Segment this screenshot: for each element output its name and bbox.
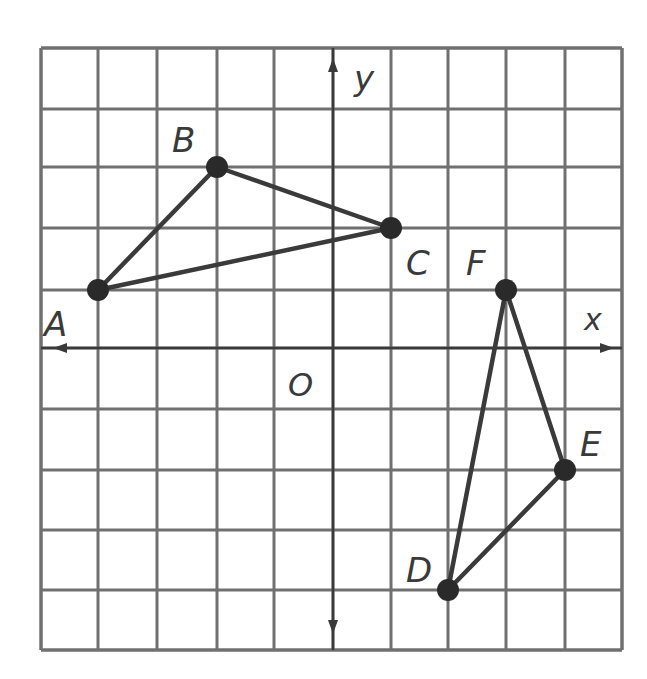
x-axis-arrow-right-icon: [600, 343, 614, 353]
y-axis-arrow-down-icon: [328, 620, 338, 634]
coordinate-plane-diagram: x y O A B C D E F: [0, 0, 647, 679]
x-axis-arrow-left-icon: [53, 343, 67, 353]
point-e: [554, 459, 576, 481]
point-c: [380, 217, 402, 239]
origin-label: O: [288, 366, 313, 404]
point-label-f: F: [466, 243, 486, 283]
coordinate-grid: x y O A B C D E F: [0, 0, 647, 679]
point-label-b: B: [172, 120, 195, 160]
point-label-e: E: [580, 424, 602, 464]
y-axis-label: y: [353, 58, 375, 98]
point-label-c: C: [406, 243, 430, 283]
x-axis-label: x: [583, 302, 602, 337]
point-f: [495, 279, 517, 301]
point-d: [437, 579, 459, 601]
y-axis-arrow-up-icon: [328, 58, 338, 72]
point-label-d: D: [406, 550, 432, 590]
point-b: [206, 156, 228, 178]
point-label-a: A: [42, 304, 67, 344]
point-a: [87, 279, 109, 301]
